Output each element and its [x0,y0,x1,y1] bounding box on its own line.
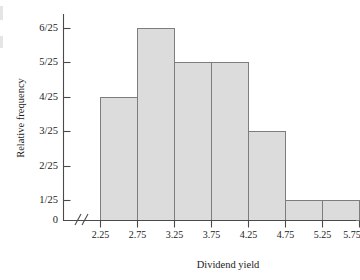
y-tick-label-5: 5/25 [39,56,58,67]
bar-bin-5 [286,201,323,221]
x-tick-label-7: 5.75 [343,229,360,240]
x-tick-label-3: 3.75 [203,229,221,240]
x-tick-label-6: 5.25 [314,229,332,240]
chart-canvas: 6/25 5/25 4/25 3/25 2/25 1/25 0 2.25 2.7… [0,0,360,280]
bar-bin-6 [323,201,360,221]
y-tick-label-6: 6/25 [39,22,58,33]
x-tick-label-4: 4.25 [240,229,258,240]
x-tick-label-1: 2.75 [129,229,147,240]
bars-group [101,29,360,221]
y-tick-label-1: 1/25 [39,194,58,205]
histogram-chart: 6/25 5/25 4/25 3/25 2/25 1/25 0 2.25 2.7… [0,0,360,280]
y-tick-label-3: 3/25 [39,125,58,136]
y-axis-title: Relative frequency [15,77,26,157]
x-tick-label-5: 4.75 [277,229,295,240]
x-tick-label-2: 3.25 [166,229,184,240]
bar-bin-4 [249,132,286,221]
bar-bin-0 [101,98,138,221]
y-tick-label-2: 2/25 [39,160,58,171]
y-tick-labels: 6/25 5/25 4/25 3/25 2/25 1/25 0 [39,22,58,225]
x-axis-title: Dividend yield [197,259,260,270]
bar-bin-1 [138,29,175,221]
y-tick-label-0: 0 [53,214,58,225]
axis-break-slash-1 [75,214,81,225]
bar-bin-3 [212,63,249,221]
x-tick-labels: 2.25 2.75 3.25 3.75 4.25 4.75 5.25 5.75 [92,229,360,240]
y-tick-label-4: 4/25 [39,91,58,102]
x-tick-label-0: 2.25 [92,229,110,240]
bar-bin-2 [175,63,212,221]
axis-break-slash-2 [82,214,88,225]
y-axis [64,14,71,221]
